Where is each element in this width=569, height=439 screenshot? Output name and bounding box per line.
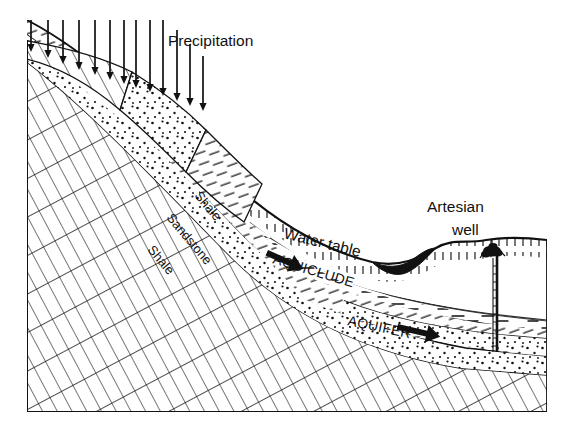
cross-section-svg: Precipitation Water table AQUICLUDE AQUI… <box>0 0 569 439</box>
groundwater-cross-section-diagram: Precipitation Water table AQUICLUDE AQUI… <box>0 0 569 439</box>
label-precipitation: Precipitation <box>168 32 253 49</box>
label-artesian-well-line1: Artesian <box>427 198 484 215</box>
label-artesian-well-line2: well <box>451 221 479 238</box>
